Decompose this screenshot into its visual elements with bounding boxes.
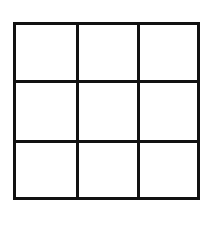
grid-border-left xyxy=(13,22,16,200)
grid-cell-r2-c2[interactable] xyxy=(79,83,137,140)
grid-cell-r2-c3[interactable] xyxy=(140,83,197,140)
grid-cell-r3-c2[interactable] xyxy=(79,143,137,197)
grid-border-right xyxy=(197,22,200,200)
grid-cell-r3-c3[interactable] xyxy=(140,143,197,197)
grid-border-top xyxy=(13,22,199,25)
grid-divider-vertical-1 xyxy=(76,22,79,200)
grid-divider-vertical-2 xyxy=(137,22,140,200)
grid-cell-r1-c2[interactable] xyxy=(79,25,137,80)
grid-divider-horizontal-2 xyxy=(13,140,199,143)
grid-cell-r1-c1[interactable] xyxy=(16,25,76,80)
grid-divider-horizontal-1 xyxy=(13,80,199,83)
grid-cell-r2-c1[interactable] xyxy=(16,83,76,140)
grid-border-bottom xyxy=(13,197,199,200)
grid-cell-r1-c3[interactable] xyxy=(140,25,197,80)
tic-tac-toe-grid xyxy=(13,22,199,200)
grid-cell-r3-c1[interactable] xyxy=(16,143,76,197)
